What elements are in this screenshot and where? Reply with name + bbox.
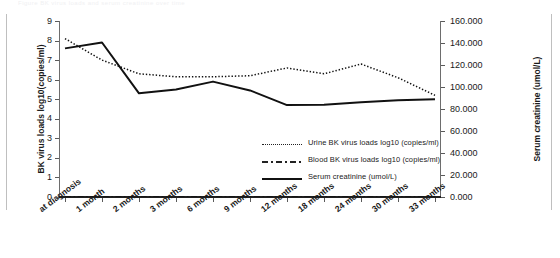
- left-tick-mark: [55, 41, 59, 42]
- right-tick-label: 140.000: [450, 39, 483, 48]
- right-tick-label: 40.000: [450, 149, 478, 158]
- right-tick-label: 160.000: [450, 17, 483, 26]
- series-line-solid: [65, 43, 435, 106]
- left-tick-mark: [55, 80, 59, 81]
- x-tick-mark: [287, 198, 288, 202]
- legend-item-label: Urine BK virus loads log10 (copies/ml): [308, 138, 439, 147]
- right-tick-mark: [441, 21, 445, 22]
- left-tick-label: 7: [47, 56, 52, 65]
- right-tick-mark: [441, 65, 445, 66]
- legend-line-swatch-dash-dot: [262, 161, 302, 163]
- left-tick-label: 2: [47, 153, 52, 162]
- right-tick-mark: [441, 197, 445, 198]
- left-tick-label: 6: [47, 75, 52, 84]
- x-tick-mark: [176, 198, 177, 202]
- left-tick-label: 4: [47, 114, 52, 123]
- left-tick-mark: [55, 138, 59, 139]
- x-tick-mark: [139, 198, 140, 202]
- right-tick-mark: [441, 43, 445, 44]
- legend-item[interactable]: Urine BK virus loads log10 (copies/ml): [262, 137, 452, 154]
- right-tick-mark: [441, 131, 445, 132]
- chart-legend: Urine BK virus loads log10 (copies/ml)Bl…: [262, 137, 452, 188]
- right-tick-mark: [441, 175, 445, 176]
- right-axis-title: Serum creatinine (umol/L): [532, 24, 542, 194]
- legend-item[interactable]: Blood BK virus loads log10 (copies/ml): [262, 154, 452, 171]
- clipped-caption-text: Figure BK virus loads and serum creatini…: [18, 0, 438, 8]
- right-tick-mark: [441, 153, 445, 154]
- x-tick-mark: [324, 198, 325, 202]
- page-frame-left-rule: [6, 14, 7, 210]
- x-axis-tick-labels: at diagnosis1 month2 months3 months6 mon…: [0, 196, 560, 258]
- left-tick-mark: [55, 119, 59, 120]
- x-tick-mark: [102, 198, 103, 202]
- left-tick-mark: [55, 21, 59, 22]
- right-tick-label: 100.000: [450, 83, 483, 92]
- page-frame-right-rule: [551, 14, 552, 210]
- left-tick-label: 5: [47, 95, 52, 104]
- right-tick-mark: [441, 87, 445, 88]
- x-tick-mark: [213, 198, 214, 202]
- legend-item[interactable]: Serum creatinine (umol/L): [262, 171, 452, 188]
- left-tick-mark: [55, 158, 59, 159]
- left-tick-mark: [55, 177, 59, 178]
- x-tick-mark: [435, 198, 436, 202]
- x-tick-mark: [361, 198, 362, 202]
- right-tick-label: 60.000: [450, 127, 478, 136]
- x-tick-mark: [65, 198, 66, 202]
- legend-line-swatch-dotted: [262, 144, 302, 148]
- legend-item-label: Serum creatinine (umol/L): [308, 172, 397, 181]
- left-tick-mark: [55, 99, 59, 100]
- left-tick-label: 9: [47, 17, 52, 26]
- legend-item-label: Blood BK virus loads log10 (copies/ml): [308, 155, 440, 164]
- legend-line-swatch-solid: [262, 178, 302, 180]
- figure-container: Figure BK virus loads and serum creatini…: [0, 0, 560, 258]
- right-tick-mark: [441, 109, 445, 110]
- left-tick-mark: [55, 60, 59, 61]
- right-tick-label: 120.000: [450, 61, 483, 70]
- x-tick-mark: [250, 198, 251, 202]
- left-tick-label: 3: [47, 134, 52, 143]
- left-tick-mark: [55, 197, 59, 198]
- left-tick-label: 8: [47, 36, 52, 45]
- x-tick-mark: [398, 198, 399, 202]
- right-tick-label: 20.000: [450, 171, 478, 180]
- right-tick-label: 80.000: [450, 105, 478, 114]
- left-tick-label: 1: [47, 173, 52, 182]
